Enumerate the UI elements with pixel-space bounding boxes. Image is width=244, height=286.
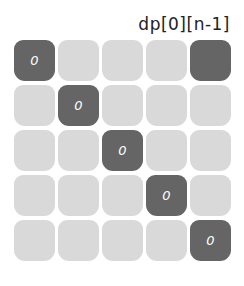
dp-cell-0-1 (58, 40, 99, 81)
dp-cell-2-1 (58, 130, 99, 171)
dp-cell-2-4 (190, 130, 231, 171)
cell-value: 0 (118, 143, 126, 158)
dp-cell-0-3 (146, 40, 187, 81)
dp-cell-3-1 (58, 175, 99, 216)
dp-cell-1-1: 0 (58, 85, 99, 126)
dp-table-grid: 00000 (14, 40, 232, 261)
dp-cell-2-0 (14, 130, 55, 171)
dp-cell-3-4 (190, 175, 231, 216)
dp-cell-0-0: 0 (14, 40, 55, 81)
dp-cell-3-3: 0 (146, 175, 187, 216)
dp-target-label: dp[0][n-1] (138, 14, 230, 34)
dp-cell-2-3 (146, 130, 187, 171)
dp-cell-0-4 (190, 40, 231, 81)
dp-cell-4-3 (146, 220, 187, 261)
dp-cell-1-0 (14, 85, 55, 126)
dp-cell-4-2 (102, 220, 143, 261)
dp-cell-3-2 (102, 175, 143, 216)
dp-cell-2-2: 0 (102, 130, 143, 171)
dp-cell-4-1 (58, 220, 99, 261)
cell-value: 0 (206, 233, 214, 248)
dp-cell-4-4: 0 (190, 220, 231, 261)
cell-value: 0 (30, 53, 38, 68)
cell-value: 0 (74, 98, 82, 113)
dp-cell-3-0 (14, 175, 55, 216)
dp-cell-1-4 (190, 85, 231, 126)
cell-value: 0 (162, 188, 170, 203)
dp-cell-0-2 (102, 40, 143, 81)
dp-cell-1-3 (146, 85, 187, 126)
dp-cell-1-2 (102, 85, 143, 126)
dp-cell-4-0 (14, 220, 55, 261)
